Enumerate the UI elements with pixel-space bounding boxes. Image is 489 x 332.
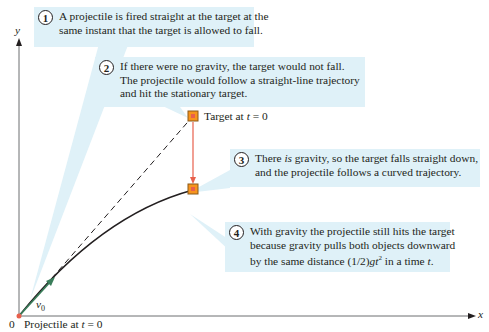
step-4-badge: 4 <box>229 225 244 240</box>
step-3-badge: 3 <box>234 152 249 167</box>
callout-3: 3 There is gravity, so the target falls … <box>230 149 480 187</box>
callout-1: 1 A projectile is fired straight at the … <box>34 7 254 47</box>
y-axis-label: y <box>15 24 20 36</box>
y-axis-arrowhead <box>16 38 22 46</box>
step-2-badge: 2 <box>99 60 114 75</box>
callout-4: 4 With gravity the projectile still hits… <box>225 222 450 272</box>
projectile-origin <box>17 314 22 319</box>
origin-label: 0 <box>9 318 15 330</box>
projectile-label: Projectile at t = 0 <box>24 318 103 330</box>
step-1-badge: 1 <box>38 10 53 25</box>
x-axis-arrowhead <box>468 313 476 319</box>
callout-2: 2 If there were no gravity, the target w… <box>95 57 365 107</box>
velocity-label: v0 <box>36 298 45 313</box>
target-label: Target at t = 0 <box>204 110 268 122</box>
x-axis-label: x <box>478 308 483 320</box>
fall-arrowhead <box>190 177 196 184</box>
